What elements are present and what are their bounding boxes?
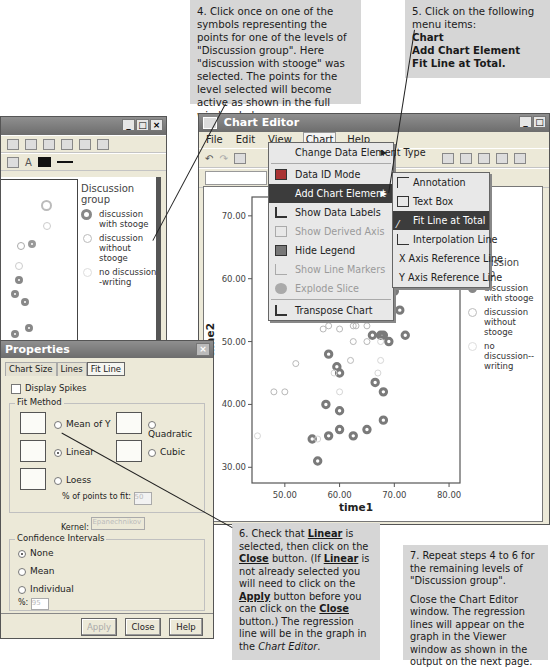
line-chart-icon[interactable] (61, 139, 73, 150)
apply-button[interactable]: Apply (81, 618, 117, 636)
background-legend-item-stooge[interactable]: discussion with stooge (81, 209, 161, 229)
data-point[interactable] (372, 379, 378, 385)
chart-legend-item-without-stooge[interactable]: discussion without stooge (466, 307, 542, 337)
menu-item-show-line-markers[interactable]: Show Line Markers (269, 260, 393, 279)
ci-percent-input[interactable]: 95 (31, 598, 49, 610)
menu-item-explode-slice[interactable]: Explode Slice (269, 279, 393, 298)
line-chart-icon[interactable] (478, 153, 490, 164)
fill-color-swatch[interactable] (38, 157, 51, 167)
help-button[interactable]: Help (169, 618, 203, 636)
redo-icon[interactable]: ↷ (219, 153, 227, 164)
transpose-icon[interactable] (514, 153, 526, 164)
close-button[interactable]: Close (125, 618, 161, 636)
radio[interactable] (18, 586, 26, 594)
close-button[interactable]: × (150, 119, 163, 131)
data-point[interactable] (337, 389, 343, 395)
bar-chart-icon[interactable] (7, 139, 19, 150)
data-point[interactable] (380, 417, 386, 423)
undo-icon[interactable]: ↶ (205, 153, 213, 164)
data-point[interactable] (386, 338, 392, 344)
data-point[interactable] (348, 357, 354, 363)
bg-point[interactable] (17, 242, 25, 250)
close-button[interactable]: × (196, 343, 210, 356)
data-point[interactable] (397, 307, 403, 313)
data-point[interactable] (364, 323, 370, 329)
data-point[interactable] (364, 426, 370, 432)
menu-item-interpolation-line[interactable]: Interpolation Line (393, 230, 489, 249)
menu-item-show-data-labels[interactable]: Show Data Labels (269, 203, 393, 222)
fit-cubic-radio[interactable]: Cubic (148, 447, 185, 457)
points-to-fit-input[interactable]: 50 (134, 492, 152, 505)
text-input-box[interactable] (205, 171, 267, 185)
minimize-button[interactable]: _ (519, 116, 532, 128)
background-legend-item-without-stooge[interactable]: discussion without stooge (81, 233, 161, 263)
fit-quadratic-radio[interactable]: Quadratic (148, 419, 204, 439)
radio[interactable] (54, 477, 62, 485)
bg-point[interactable] (11, 330, 19, 338)
fit-mean-of-y-radio[interactable]: Mean of Y (54, 419, 110, 429)
data-point[interactable] (325, 433, 331, 439)
data-point[interactable] (271, 389, 277, 395)
menu-item-add-chart-element[interactable]: Add Chart Element▶ (269, 184, 393, 203)
data-point[interactable] (336, 426, 342, 432)
bg-point[interactable] (43, 222, 51, 230)
data-point[interactable] (375, 370, 381, 376)
legend-icon[interactable] (460, 153, 472, 164)
menu-item-hide-legend[interactable]: Hide Legend (269, 241, 393, 260)
menu-file[interactable]: File (204, 132, 225, 148)
radio[interactable] (148, 421, 156, 429)
pie-icon[interactable] (496, 153, 508, 164)
ci-mean-radio[interactable]: Mean (18, 566, 55, 576)
menu-item-transpose-chart[interactable]: Transpose Chart (269, 301, 393, 320)
tab-fit-line[interactable]: Fit Line (87, 362, 125, 376)
data-point[interactable] (350, 339, 356, 345)
data-point[interactable] (337, 326, 343, 332)
data-point[interactable] (254, 433, 260, 439)
menu-item-data-id-mode[interactable]: Data ID Mode (269, 165, 393, 184)
transpose-icon[interactable] (97, 139, 109, 150)
radio[interactable] (54, 421, 62, 429)
menu-item-change-data-element-type[interactable]: Change Data Element Type▶ (269, 143, 393, 162)
maximize-button[interactable]: □ (533, 116, 546, 128)
menu-item-text-box[interactable]: Text Box (393, 192, 489, 211)
menu-item-show-derived-axis[interactable]: Show Derived Axis (269, 222, 393, 241)
data-point[interactable] (326, 323, 332, 329)
checkbox[interactable] (11, 384, 21, 394)
legend-icon[interactable] (43, 139, 55, 150)
tab-chart-size[interactable]: Chart Size (5, 362, 57, 376)
kernel-select[interactable]: Epanechnikov (91, 517, 145, 530)
data-point[interactable] (364, 339, 370, 345)
minimize-button[interactable]: _ (122, 119, 135, 131)
legend-symbol-selected-icon[interactable] (81, 209, 92, 220)
bg-point[interactable] (25, 324, 33, 332)
bg-point[interactable] (41, 200, 52, 211)
properties-icon[interactable] (234, 153, 246, 164)
align-icon[interactable] (7, 157, 19, 168)
pie-icon[interactable] (79, 139, 91, 150)
fit-loess-radio[interactable]: Loess (54, 475, 91, 485)
data-point[interactable] (380, 389, 386, 395)
chart-legend-item-writing[interactable]: no discussion--writing (466, 341, 542, 371)
background-legend-item-writing[interactable]: no discussion--writing (81, 267, 161, 287)
tab-lines[interactable]: Lines (57, 362, 87, 376)
maximize-button[interactable]: □ (136, 119, 149, 131)
radio[interactable] (148, 449, 156, 457)
menu-item-annotation[interactable]: Annotation (393, 173, 489, 192)
data-point[interactable] (350, 433, 356, 439)
data-point[interactable] (378, 357, 384, 363)
menu-item-x-axis-reference-line[interactable]: X Axis Reference Line (393, 249, 489, 268)
menu-item-y-axis-reference-line[interactable]: Y Axis Reference Line (393, 268, 489, 287)
frame-icon[interactable] (442, 153, 454, 164)
background-scrollbar[interactable] (156, 177, 161, 347)
bg-point[interactable] (11, 290, 19, 298)
data-point[interactable] (282, 389, 288, 395)
display-spikes-checkbox[interactable]: Display Spikes (11, 383, 86, 394)
data-point[interactable] (323, 401, 329, 407)
radio[interactable] (18, 568, 26, 576)
data-point[interactable] (293, 361, 299, 367)
data-point[interactable] (325, 351, 331, 357)
bg-point[interactable] (15, 262, 23, 270)
menu-edit[interactable]: Edit (234, 132, 257, 148)
bg-point[interactable] (28, 240, 36, 248)
ci-individual-radio[interactable]: Individual (18, 584, 74, 594)
